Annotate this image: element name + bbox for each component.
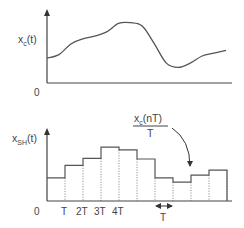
bottom-y-axis-arrow-icon	[44, 128, 50, 135]
top-y-label: xc(t)	[18, 33, 37, 47]
period-span: T	[156, 206, 172, 223]
tick-label-2T: 2T	[76, 206, 88, 217]
bottom-y-label: xSH(t)	[12, 132, 37, 146]
top-origin-label: 0	[34, 87, 40, 98]
sample-annotation: xc(nT) T	[133, 112, 190, 166]
top-y-axis-arrow-icon	[44, 9, 50, 16]
annotation-arrow-icon	[172, 128, 190, 166]
bottom-plot: xSH(t) 0 T 2T 3T 4T xc(nT) T T	[12, 112, 232, 223]
top-plot: xc(t) 0	[18, 9, 232, 98]
tick-label-T: T	[61, 206, 67, 217]
period-span-label: T	[160, 212, 166, 223]
annotation-numerator: xc(nT)	[134, 112, 162, 126]
tick-label-3T: 3T	[94, 206, 106, 217]
sample-and-hold-diagram: xc(t) 0 xSH(t) 0 T 2T 3T 4T xc(nT) T T	[0, 0, 244, 228]
annotation-denominator: T	[147, 127, 154, 139]
continuous-signal-curve	[47, 22, 226, 67]
tick-label-4T: 4T	[112, 206, 124, 217]
bottom-origin-label: 0	[34, 206, 40, 217]
